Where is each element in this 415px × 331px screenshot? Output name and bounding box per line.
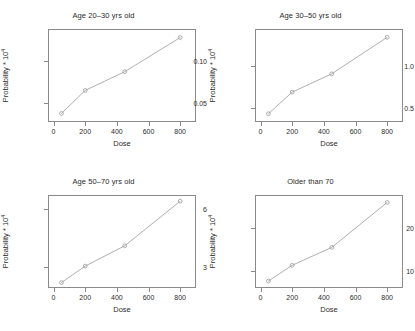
chart-panel-3: Age 50–70 yrs old360200400600800DoseProb… [0, 166, 207, 331]
y-axis-title-exponent: 4 [0, 49, 6, 52]
panel-title: Age 30–50 yrs old [207, 11, 414, 20]
x-tick-mark [356, 288, 357, 292]
x-tick-mark [292, 288, 293, 292]
chart-panel-4: Older than 7010200200400600800DoseProbab… [207, 166, 414, 331]
series-line [61, 201, 180, 282]
x-axis-title: Dose [48, 305, 196, 314]
x-tick-mark [356, 122, 357, 126]
x-tick-label: 600 [341, 294, 371, 301]
x-tick-mark [117, 288, 118, 292]
data-series [255, 195, 403, 288]
y-axis-title: Probability * 104 [0, 29, 12, 122]
x-tick-label: 400 [309, 294, 339, 301]
panel-title: Older than 70 [207, 177, 414, 186]
x-tick-mark [292, 122, 293, 126]
y-axis-title-exponent: 4 [207, 215, 213, 218]
x-tick-label: 600 [134, 128, 164, 135]
x-tick-label: 800 [165, 294, 195, 301]
y-axis-title-exponent: 4 [0, 215, 6, 218]
x-tick-label: 0 [246, 128, 276, 135]
x-tick-mark [387, 122, 388, 126]
plot-area [48, 195, 196, 288]
x-tick-label: 0 [246, 294, 276, 301]
plot-area [255, 195, 403, 288]
x-tick-mark [324, 122, 325, 126]
y-axis-title-text: Probability * 10 [208, 52, 217, 102]
y-axis-title-text: Probability * 10 [208, 218, 217, 268]
plot-area [255, 29, 403, 122]
x-tick-mark [387, 288, 388, 292]
x-tick-mark [180, 122, 181, 126]
y-axis-title-exponent: 4 [207, 49, 213, 52]
y-axis-title-text: Probability * 10 [1, 52, 10, 102]
chart-panel-1: Age 20–30 yrs old0.050.100200400600800Do… [0, 0, 207, 165]
x-tick-label: 400 [102, 294, 132, 301]
panel-title: Age 50–70 yrs old [0, 177, 207, 186]
x-tick-mark [54, 288, 55, 292]
x-tick-mark [261, 288, 262, 292]
x-tick-label: 200 [277, 128, 307, 135]
x-axis-title: Dose [48, 139, 196, 148]
series-line [268, 202, 387, 281]
x-tick-mark [261, 122, 262, 126]
y-axis-title: Probability * 104 [0, 195, 12, 288]
x-tick-mark [149, 122, 150, 126]
x-tick-label: 800 [372, 128, 402, 135]
x-tick-label: 200 [277, 294, 307, 301]
data-series [48, 29, 196, 122]
x-tick-label: 200 [70, 128, 100, 135]
x-tick-label: 0 [39, 128, 69, 135]
series-line [268, 37, 387, 113]
y-axis-title-text: Probability * 10 [1, 218, 10, 268]
x-tick-label: 600 [134, 294, 164, 301]
x-tick-label: 600 [341, 128, 371, 135]
y-axis-title: Probability * 104 [207, 195, 219, 288]
x-tick-label: 800 [165, 128, 195, 135]
x-tick-mark [149, 288, 150, 292]
panel-title: Age 20–30 yrs old [0, 11, 207, 20]
x-tick-mark [324, 288, 325, 292]
x-tick-label: 0 [39, 294, 69, 301]
x-axis-title: Dose [255, 139, 403, 148]
plot-area [48, 29, 196, 122]
series-line [61, 38, 180, 114]
x-tick-mark [117, 122, 118, 126]
x-axis-title: Dose [255, 305, 403, 314]
x-tick-label: 400 [102, 128, 132, 135]
data-series [255, 29, 403, 122]
x-tick-mark [85, 122, 86, 126]
x-tick-label: 400 [309, 128, 339, 135]
x-tick-mark [54, 122, 55, 126]
x-tick-label: 200 [70, 294, 100, 301]
y-axis-title: Probability * 104 [207, 29, 219, 122]
figure-canvas: Age 20–30 yrs old0.050.100200400600800Do… [0, 0, 415, 331]
chart-panel-2: Age 30–50 yrs old0.51.00200400600800Dose… [207, 0, 414, 165]
x-tick-mark [85, 288, 86, 292]
data-series [48, 195, 196, 288]
x-tick-label: 800 [372, 294, 402, 301]
x-tick-mark [180, 288, 181, 292]
